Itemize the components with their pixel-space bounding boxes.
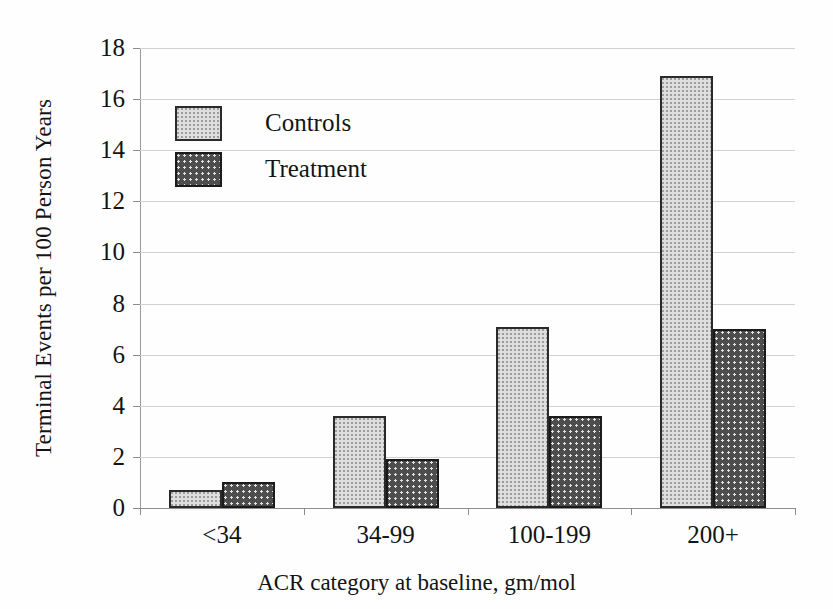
y-axis-tick-mark xyxy=(133,355,140,356)
y-axis-tick-label: 14 xyxy=(85,137,125,162)
y-axis-tick-mark xyxy=(133,150,140,151)
y-axis-tick-mark xyxy=(133,457,140,458)
x-axis-tick-mark xyxy=(140,508,141,515)
chart-legend: Controls Treatment xyxy=(175,100,475,192)
x-axis-tick-mark xyxy=(468,508,469,515)
y-axis-tick-mark xyxy=(133,508,140,509)
x-axis-tick-mark xyxy=(304,508,305,515)
y-axis-tick-label: 4 xyxy=(85,393,125,418)
y-axis-tick-label: 8 xyxy=(85,291,125,316)
x-axis-tick-mark xyxy=(631,508,632,515)
y-axis-tick-label: 2 xyxy=(85,444,125,469)
y-axis-tick-mark xyxy=(133,304,140,305)
y-axis-tick-mark xyxy=(133,406,140,407)
legend-swatch-treatment-icon xyxy=(175,152,222,187)
y-axis-tick-mark xyxy=(133,252,140,253)
y-axis-tick-labels: 181614121086420 xyxy=(78,0,125,609)
x-axis-category-label: <34 xyxy=(140,521,304,549)
y-axis-tick-mark xyxy=(133,99,140,100)
y-axis-tick-mark xyxy=(133,201,140,202)
x-axis-category-label: 200+ xyxy=(631,521,795,549)
x-axis-category-label: 100-199 xyxy=(468,521,632,549)
y-axis-tick-label: 0 xyxy=(85,495,125,520)
y-axis-tick-mark xyxy=(133,48,140,49)
y-axis-tick-label: 10 xyxy=(85,239,125,264)
legend-label-treatment: Treatment xyxy=(265,155,367,183)
legend-swatch-controls-icon xyxy=(175,106,222,141)
y-axis-tick-label: 18 xyxy=(85,35,125,60)
bar-controls-3 xyxy=(660,76,713,508)
legend-item-controls: Controls xyxy=(175,100,475,146)
legend-label-controls: Controls xyxy=(265,109,351,137)
x-axis-category-label: 34-99 xyxy=(304,521,468,549)
x-axis-title: ACR category at baseline, gm/mol xyxy=(0,570,833,596)
y-axis-tick-label: 16 xyxy=(85,86,125,111)
bar-chart-figure: Terminal Events per 100 Person Years 181… xyxy=(0,0,833,609)
y-axis-title: Terminal Events per 100 Person Years xyxy=(31,48,57,508)
x-axis-tick-mark xyxy=(795,508,796,515)
legend-item-treatment: Treatment xyxy=(175,146,475,192)
y-axis-tick-label: 6 xyxy=(85,342,125,367)
y-axis-tick-label: 12 xyxy=(85,188,125,213)
bar-treatment-3 xyxy=(713,329,766,508)
